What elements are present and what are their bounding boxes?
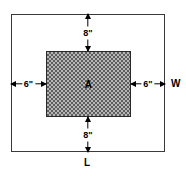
dimension-top-value: 8" <box>82 26 93 39</box>
arrowhead-up-icon <box>85 116 91 122</box>
width-label: W <box>171 78 180 89</box>
arrowhead-up-icon <box>85 13 91 19</box>
dimension-bottom: 8" <box>79 117 97 152</box>
inner-area-label: A <box>47 52 130 116</box>
dimension-top: 8" <box>79 14 97 51</box>
arrowhead-right-icon <box>41 81 47 87</box>
arrowhead-right-icon <box>160 81 166 87</box>
arrowhead-left-icon <box>10 81 16 87</box>
dimension-right: 6" <box>131 75 165 93</box>
dimension-left-value: 6" <box>22 79 35 90</box>
dimension-left: 6" <box>11 75 46 93</box>
length-label: L <box>84 157 90 168</box>
inner-hatched-rectangle: A <box>46 51 131 117</box>
arrowhead-down-icon <box>85 147 91 153</box>
arrowhead-down-icon <box>85 46 91 52</box>
dimension-right-value: 6" <box>141 79 154 90</box>
dimension-bottom-value: 8" <box>82 128 93 141</box>
arrowhead-left-icon <box>130 81 136 87</box>
dimension-diagram: A 8" 8" 6" 6" W L <box>0 0 186 176</box>
